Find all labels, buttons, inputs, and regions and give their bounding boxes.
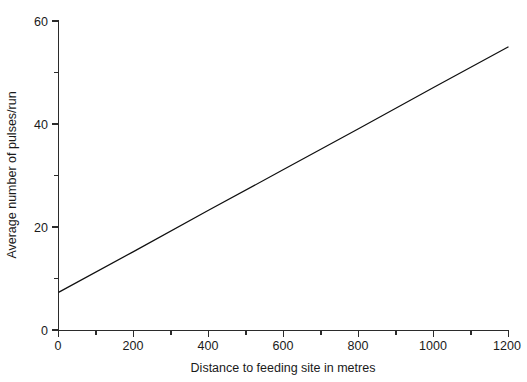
x-tick-label-400: 400 — [198, 339, 219, 353]
x-axis-title: Distance to feeding site in metres — [191, 361, 376, 375]
x-tick-label-600: 600 — [273, 339, 294, 353]
y-tick-label-0: 0 — [41, 324, 48, 338]
x-tick-label-0: 0 — [55, 339, 62, 353]
x-tick-label-200: 200 — [123, 339, 144, 353]
x-tick-label-1000: 1000 — [419, 339, 447, 353]
line-chart-svg: 60 40 20 0 0 200 400 — [0, 0, 527, 382]
x-tick-label-800: 800 — [348, 339, 369, 353]
y-tick-label-40: 40 — [34, 118, 48, 132]
x-tick-label-1200: 1200 — [493, 339, 521, 353]
y-tick-label-20: 20 — [34, 221, 48, 235]
chart-figure: 60 40 20 0 0 200 400 — [0, 0, 527, 382]
y-tick-label-60: 60 — [34, 15, 48, 29]
chart-background — [0, 0, 527, 382]
y-axis-title: Average number of pulses/run — [5, 91, 19, 258]
